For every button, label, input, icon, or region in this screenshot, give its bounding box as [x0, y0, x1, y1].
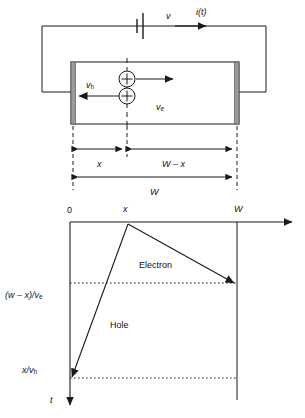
graph-x-tick-label: x: [123, 205, 128, 214]
figure-svg: [0, 0, 305, 418]
electron-transit-time-expr: (w – x)/v: [5, 290, 39, 300]
electron-curve-label: Electron: [139, 261, 172, 270]
electron-transit-time-label: (w – x)/ve: [5, 291, 43, 301]
current-label: i(t): [196, 8, 207, 17]
wire-right-top: [154, 26, 266, 92]
graph-origin-label: 0: [67, 206, 72, 215]
hole-velocity-subscript: h: [91, 83, 95, 90]
semiconductor-induced-current-figure: v i(t) vh ve x W – x W 0 x W t (w – x)/v…: [0, 0, 305, 418]
carrier-charges-group: [119, 71, 135, 104]
electron-velocity-label: ve: [156, 103, 164, 113]
electron-transit-time-subscript: e: [39, 293, 43, 300]
hole-transit-time-label: x/vh: [22, 366, 37, 376]
battery-voltage-label: v: [166, 12, 171, 21]
hole-trajectory-line: [72, 224, 128, 377]
left-electrode-icon: [71, 62, 76, 124]
dimension-label-w-minus-x: W – x: [162, 160, 185, 169]
device-body-rect: [71, 62, 239, 124]
hole-curve-label: Hole: [110, 321, 129, 330]
dimension-label-w: W: [150, 188, 159, 197]
right-electrode-icon: [235, 62, 240, 124]
electron-velocity-subscript: e: [161, 105, 165, 112]
dimension-label-x: x: [97, 160, 102, 169]
electron-trajectory-line: [128, 224, 234, 283]
dimension-extension-lines: [73, 126, 237, 190]
graph-time-axis-label: t: [50, 396, 53, 405]
hole-transit-time-subscript: h: [34, 368, 38, 375]
hole-velocity-label: vh: [86, 81, 94, 91]
graph-w-tick-label: W: [234, 205, 243, 214]
hole-transit-time-expr: x/v: [22, 365, 34, 375]
